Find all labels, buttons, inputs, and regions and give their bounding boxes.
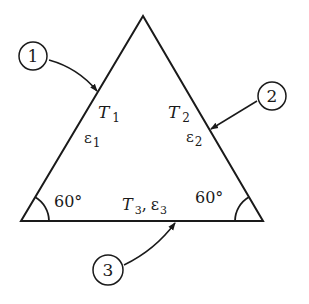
surface-2-temperature: T2 <box>168 102 190 125</box>
surface-2-number: 2 <box>267 86 278 106</box>
surface-3-arrow <box>124 223 175 265</box>
angle-right-label: 60° <box>195 188 223 207</box>
surface-1-emissivity: ε1 <box>84 129 100 150</box>
diagram-canvas: 1 2 3 T1 ε1 T2 ε2 T3,ε3 60° 60° <box>0 0 309 304</box>
angle-left-label: 60° <box>54 192 82 211</box>
surface-2-arrow <box>211 101 257 129</box>
surface-1-temperature: T1 <box>98 102 120 125</box>
angle-arc-left <box>35 197 49 221</box>
triangle-outline <box>21 16 263 221</box>
surface-3-labels: T3,ε3 <box>122 195 167 217</box>
triangle-enclosure-diagram: 1 2 3 T1 ε1 T2 ε2 T3,ε3 60° 60° <box>0 0 309 304</box>
surface-3-number: 3 <box>103 260 114 280</box>
angle-arc-right <box>235 197 249 221</box>
surface-2-emissivity: ε2 <box>186 128 202 149</box>
surface-1-arrow <box>49 60 97 91</box>
surface-1-number: 1 <box>28 46 39 66</box>
